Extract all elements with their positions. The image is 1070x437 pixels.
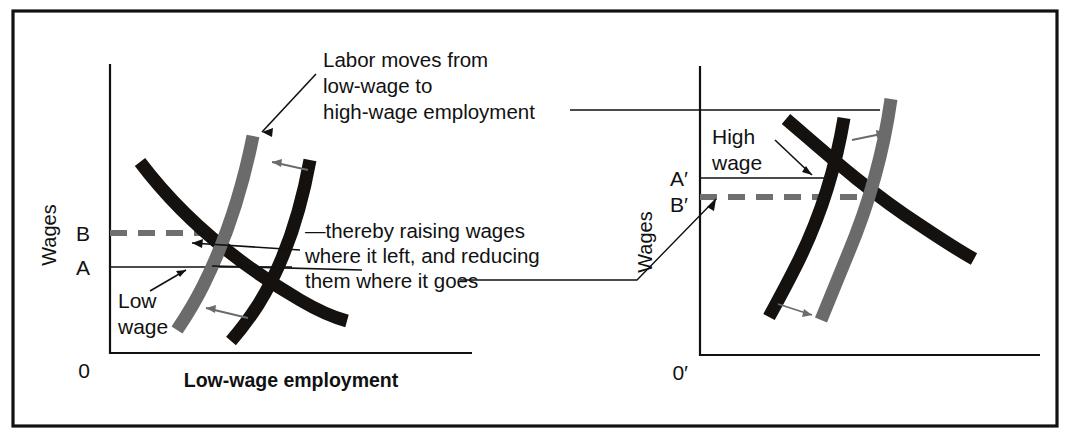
diagram-canvas: Wages B A 0 Low wage Low-wage employment: [0, 0, 1070, 437]
left-x-axis-title: Low-wage employment: [184, 369, 399, 391]
annotation-labor-moves-pointer-line: [262, 74, 316, 132]
annotation-labor-moves-line2: low-wage to: [323, 74, 432, 97]
annotation-thereby-pointer-head: [192, 239, 203, 248]
right-panel: Wages A′ B′ 0′ High wage: [634, 66, 1040, 384]
annotation-labor-moves-line3: high-wage employment: [323, 100, 535, 123]
annotation-thereby-line3: them where it goes: [305, 269, 478, 292]
right-shift-arrow-bottom-head: [802, 309, 812, 317]
left-curve-label-line2: wage: [117, 315, 168, 338]
right-curve-label-line2: wage: [711, 151, 762, 174]
right-origin-label: 0′: [672, 361, 688, 384]
annotation-thereby-line1: —thereby raising wages: [305, 219, 525, 242]
left-y-axis-label: Wages: [38, 204, 60, 266]
left-origin-label: 0: [78, 359, 90, 382]
left-tick-label-b: B: [76, 222, 90, 245]
right-tick-label-b: B′: [670, 193, 688, 216]
right-curve-label-line1: High: [712, 125, 755, 148]
annotation-thereby-line2: where it left, and reducing: [304, 244, 540, 267]
left-tick-label-a: A: [76, 256, 90, 279]
left-lowwage-pointer-head: [176, 270, 186, 277]
left-curve-label-line1: Low: [118, 289, 157, 312]
annotation-thereby-leader-head: [707, 199, 716, 211]
annotation-labor-moves-line1: Labor moves from: [323, 48, 488, 71]
right-tick-label-a: A′: [670, 167, 688, 190]
figure-container: Wages B A 0 Low wage Low-wage employment: [0, 0, 1070, 437]
